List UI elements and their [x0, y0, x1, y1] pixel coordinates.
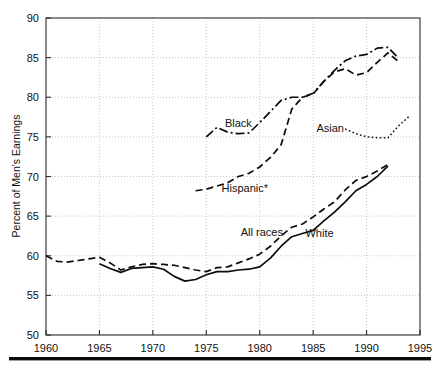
chart-background [0, 0, 440, 372]
x-tick-label-1960: 1960 [34, 342, 58, 354]
x-tick-label-1965: 1965 [87, 342, 111, 354]
y-tick-label-80: 80 [27, 91, 39, 103]
y-tick-label-85: 85 [27, 52, 39, 64]
x-tick-label-1995: 1995 [408, 342, 432, 354]
y-axis-title: Percent of Men's Earnings [10, 115, 22, 238]
x-tick-label-1990: 1990 [354, 342, 378, 354]
x-tick-label-1975: 1975 [194, 342, 218, 354]
earnings-line-chart: 505560657075808590 196019651970197519801… [0, 0, 440, 372]
y-tick-label-55: 55 [27, 289, 39, 301]
x-tick-label-1970: 1970 [141, 342, 165, 354]
series-label-white: White [305, 227, 333, 239]
y-axis-tick-labels: 505560657075808590 [27, 12, 39, 341]
y-tick-label-60: 60 [27, 250, 39, 262]
y-tick-label-70: 70 [27, 171, 39, 183]
y-tick-label-90: 90 [27, 12, 39, 24]
chart-figure: 505560657075808590 196019651970197519801… [0, 0, 440, 372]
series-label-hispanic: Hispanic* [222, 182, 269, 194]
y-tick-label-75: 75 [27, 131, 39, 143]
series-label-allraces: All races [241, 226, 284, 238]
x-tick-label-1980: 1980 [247, 342, 271, 354]
y-tick-label-65: 65 [27, 210, 39, 222]
bottom-rule [9, 357, 431, 360]
series-label-asian: Asian [316, 122, 344, 134]
y-tick-label-50: 50 [27, 329, 39, 341]
series-label-black: Black [225, 117, 252, 129]
x-tick-label-1985: 1985 [301, 342, 325, 354]
